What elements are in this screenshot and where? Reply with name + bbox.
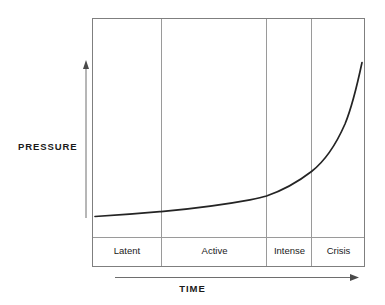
plot-frame — [93, 19, 365, 267]
phase-label-active: Active — [162, 245, 267, 256]
x-axis-arrow-icon — [350, 274, 359, 281]
y-axis-arrow-icon — [83, 60, 89, 69]
chart-canvas — [0, 0, 385, 305]
y-axis-label: PRESSURE — [18, 141, 77, 152]
phase-label-crisis: Crisis — [312, 245, 365, 256]
x-axis-label: TIME — [0, 283, 385, 294]
phase-label-intense: Intense — [267, 245, 312, 256]
pressure-vs-time-chart: PRESSURE TIME Latent Active Intense Cris… — [0, 0, 385, 305]
phase-label-latent: Latent — [92, 245, 162, 256]
